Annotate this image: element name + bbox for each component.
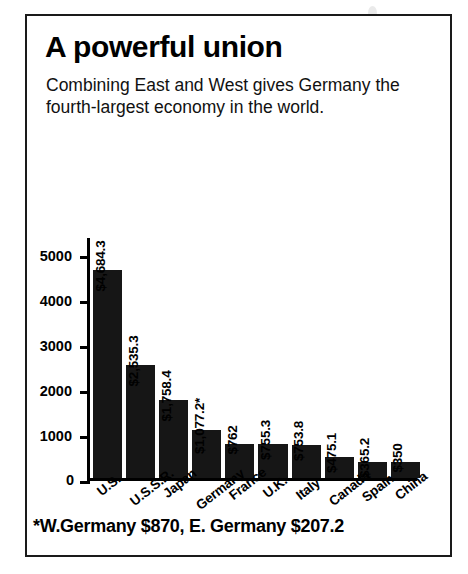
- figure-subtitle: Combining East and West gives Germany th…: [46, 74, 436, 119]
- figure-footnote: *W.Germany $870, E. Germany $207.2: [33, 516, 344, 537]
- bar-value-label: $2,535.3: [126, 336, 141, 387]
- y-axis-tick-label: 2000: [40, 383, 72, 399]
- y-axis-tick: 1000: [80, 436, 90, 439]
- bar-value-label: $350: [390, 444, 405, 473]
- bar-slot: $753.8: [292, 238, 321, 478]
- y-axis-tick-label: 4000: [40, 293, 72, 309]
- y-axis-tick: 3000: [80, 346, 90, 349]
- bar-value-label: $755.3: [258, 420, 273, 460]
- y-axis-tick: 0: [80, 481, 90, 484]
- bar-value-label: $753.8: [291, 420, 306, 460]
- y-axis-tick: 4000: [80, 301, 90, 304]
- bar-slot: $475.1: [325, 238, 354, 478]
- y-axis-tick-label: 5000: [40, 248, 72, 264]
- bar-value-label: $4,684.3: [93, 240, 108, 291]
- bar-italy[interactable]: $753.8: [292, 445, 321, 479]
- y-axis-tick-label: 0: [66, 472, 74, 488]
- bar-germany[interactable]: $1,077.2*: [192, 430, 221, 478]
- figure-frame: A powerful union Combining East and West…: [25, 14, 452, 557]
- bar-value-label: $475.1: [324, 433, 339, 473]
- bar-slot: $762: [225, 238, 254, 478]
- bar-u-s[interactable]: $4,684.3: [93, 270, 122, 478]
- bar-slot: $1,758.4: [159, 238, 188, 478]
- bar-slot: $365.2: [358, 238, 387, 478]
- bar-japan[interactable]: $1,758.4: [159, 400, 188, 478]
- bar-u-s-s-r[interactable]: $2,535.3: [126, 365, 155, 478]
- bar-slot: $2,535.3: [126, 238, 155, 478]
- bar-group: $4,684.3$2,535.3$1,758.4$1,077.2*$762$75…: [90, 238, 420, 478]
- bar-slot: $4,684.3: [93, 238, 122, 478]
- bar-slot: $1,077.2*: [192, 238, 221, 478]
- y-axis-tick: 5000: [80, 256, 90, 259]
- bar-slot: $755.3: [258, 238, 287, 478]
- y-axis-tick-label: 3000: [40, 338, 72, 354]
- page-title: A powerful union: [45, 32, 282, 62]
- bar-value-label: $762: [225, 426, 240, 455]
- bar-value-label: $1,758.4: [159, 370, 174, 421]
- chart-plot-area: 500040003000200010000 $4,684.3$2,535.3$1…: [87, 226, 437, 481]
- y-axis-tick-label: 1000: [40, 428, 72, 444]
- bar-value-label: $1,077.2*: [192, 398, 207, 454]
- y-axis-tick: 2000: [80, 391, 90, 394]
- bar-canada[interactable]: $475.1: [325, 457, 354, 478]
- bar-slot: $350: [391, 238, 420, 478]
